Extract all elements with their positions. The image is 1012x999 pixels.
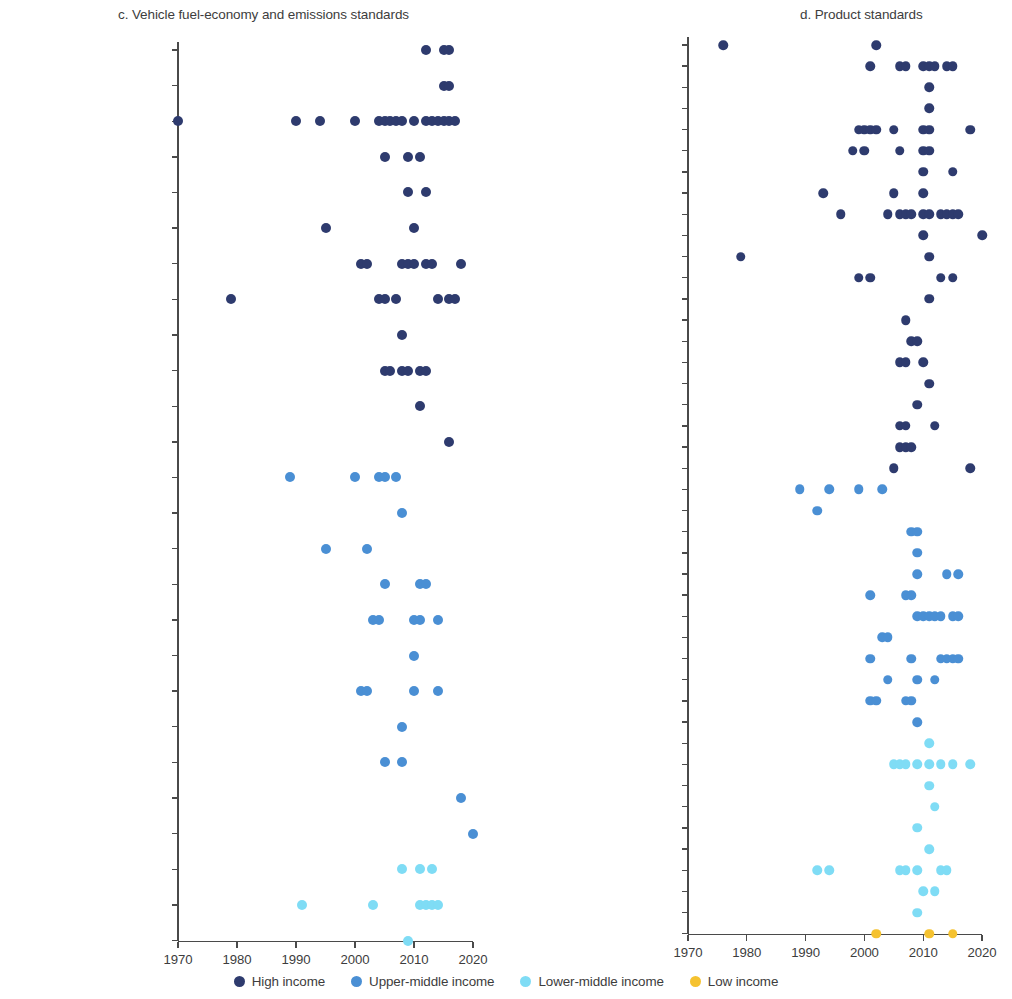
y-axis-tick (682, 171, 688, 172)
figure-root: c. Vehicle fuel-economy and emissions st… (0, 0, 1012, 999)
y-axis-tick (682, 150, 688, 151)
x-axis-tick-label: 2020 (459, 952, 488, 967)
x-axis-tick (864, 935, 865, 941)
data-point (877, 485, 887, 495)
x-axis-line (178, 941, 473, 942)
y-axis-tick (682, 531, 688, 532)
y-axis-tick (172, 726, 178, 727)
data-point (918, 167, 928, 177)
legend-swatch-lower_middle-icon (520, 976, 531, 987)
data-point (836, 210, 846, 220)
x-axis-tick-label: 1970 (674, 945, 703, 960)
y-axis-tick (682, 848, 688, 849)
y-axis-tick (682, 616, 688, 617)
data-point (918, 358, 928, 368)
x-axis-tick-label: 2000 (341, 952, 370, 967)
y-axis-tick (172, 584, 178, 585)
data-point (924, 104, 934, 114)
data-point (397, 864, 407, 874)
data-point (350, 116, 360, 126)
y-axis-tick (682, 891, 688, 892)
y-axis-tick (172, 797, 178, 798)
data-point (456, 793, 466, 803)
x-axis-tick-label: 1990 (282, 952, 311, 967)
y-axis-tick (682, 129, 688, 130)
data-point (924, 739, 934, 749)
data-point (315, 116, 325, 126)
panel-d-title: d. Product standards (800, 7, 923, 22)
x-axis-tick (472, 942, 473, 948)
data-point (871, 696, 881, 706)
data-point (860, 146, 870, 156)
data-point (913, 675, 923, 685)
data-point (918, 188, 928, 198)
data-point (936, 760, 946, 770)
data-point (907, 442, 917, 452)
y-axis-tick (682, 256, 688, 257)
data-point (924, 83, 934, 93)
data-point (924, 781, 934, 791)
y-axis-tick (682, 362, 688, 363)
y-axis-tick (682, 573, 688, 574)
data-point (913, 569, 923, 579)
x-axis-tick-label: 1990 (791, 945, 820, 960)
y-axis-tick (682, 446, 688, 447)
data-point (948, 61, 958, 71)
data-point (901, 760, 911, 770)
data-point (936, 612, 946, 622)
y-axis-tick (682, 425, 688, 426)
legend-label: High income (252, 974, 325, 989)
y-axis-tick (682, 700, 688, 701)
data-point (954, 210, 964, 220)
data-point (421, 366, 431, 376)
data-point (291, 116, 301, 126)
data-point (977, 231, 987, 241)
data-point (403, 187, 413, 197)
data-point (924, 146, 934, 156)
data-point (889, 188, 899, 198)
y-axis-tick (682, 65, 688, 66)
data-point (848, 146, 858, 156)
data-point (297, 900, 307, 910)
y-axis-tick (172, 406, 178, 407)
data-point (930, 887, 940, 897)
y-axis-tick (682, 552, 688, 553)
data-point (421, 579, 431, 589)
y-axis-tick (682, 235, 688, 236)
x-axis-tick (236, 942, 237, 948)
data-point (380, 294, 390, 304)
data-point (397, 757, 407, 767)
y-axis-tick (682, 44, 688, 45)
data-point (409, 116, 419, 126)
data-point (965, 125, 975, 135)
data-point (913, 400, 923, 410)
data-point (948, 760, 958, 770)
data-point (385, 366, 395, 376)
x-axis-tick-label: 1980 (223, 952, 252, 967)
data-point (854, 485, 864, 495)
panel-c-title: c. Vehicle fuel-economy and emissions st… (118, 7, 409, 22)
data-point (948, 929, 958, 939)
y-axis-tick (172, 227, 178, 228)
data-point (824, 865, 834, 875)
data-point (866, 273, 876, 283)
x-axis-tick (981, 935, 982, 941)
data-point (226, 294, 236, 304)
y-axis-line (177, 42, 178, 941)
data-point (866, 61, 876, 71)
y-axis-tick (172, 477, 178, 478)
y-axis-tick (172, 869, 178, 870)
data-point (930, 802, 940, 812)
data-point (918, 231, 928, 241)
y-axis-tick (172, 762, 178, 763)
y-axis-tick (172, 192, 178, 193)
data-point (901, 315, 911, 325)
data-point (380, 152, 390, 162)
x-axis-tick-label: 2000 (850, 945, 879, 960)
data-point (444, 45, 454, 55)
data-point (409, 259, 419, 269)
data-point (321, 223, 331, 233)
data-point (948, 167, 958, 177)
y-axis-tick (682, 404, 688, 405)
data-point (924, 252, 934, 262)
